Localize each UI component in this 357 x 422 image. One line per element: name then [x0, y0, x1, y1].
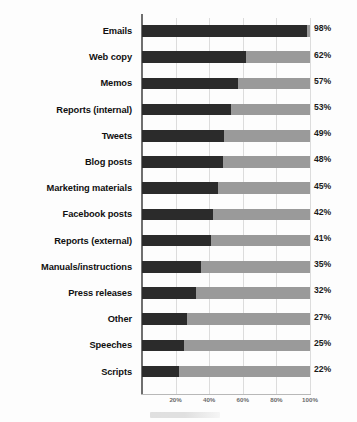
bar-track — [142, 182, 310, 194]
bar-fill — [142, 78, 238, 90]
x-tick-label-80: 80% — [270, 396, 282, 403]
bar-fill — [142, 313, 187, 325]
bar-value-label: 22% — [314, 364, 331, 374]
category-label: Manuals/instructions — [0, 254, 132, 280]
category-label: Reports (external) — [0, 228, 132, 254]
caption-remnant — [150, 412, 220, 418]
category-label: Reports (internal) — [0, 97, 132, 123]
bar-value-label: 45% — [314, 181, 331, 191]
bar-value-label: 42% — [314, 207, 331, 217]
category-label: Blog posts — [0, 149, 132, 175]
category-label: Press releases — [0, 280, 132, 306]
category-label: Scripts — [0, 359, 132, 385]
bar-track — [142, 313, 310, 325]
bar-value-label: 53% — [314, 102, 331, 112]
bar-track — [142, 261, 310, 273]
bar-fill — [142, 340, 184, 352]
bar-track — [142, 130, 310, 142]
chart-row: Press releases 32% — [0, 280, 357, 306]
value-axis-baseline — [141, 394, 311, 395]
bar-value-label: 49% — [314, 128, 331, 138]
bar-track — [142, 156, 310, 168]
chart-row: Memos 57% — [0, 70, 357, 96]
bar-track — [142, 25, 310, 37]
bar-value-label: 48% — [314, 154, 331, 164]
chart-row: Tweets 49% — [0, 123, 357, 149]
bar-track — [142, 287, 310, 299]
category-label: Emails — [0, 18, 132, 44]
bar-value-label: 25% — [314, 338, 331, 348]
x-tick-label-40: 40% — [203, 396, 215, 403]
bar-value-label: 62% — [314, 50, 331, 60]
bar-value-label: 35% — [314, 259, 331, 269]
chart-row: Reports (external) 41% — [0, 228, 357, 254]
chart-row: Scripts 22% — [0, 359, 357, 385]
bar-track — [142, 235, 310, 247]
chart-row: Blog posts 48% — [0, 149, 357, 175]
bar-value-label: 27% — [314, 312, 331, 322]
plot-area: Emails 98% Web copy 62% Memos 57% Report… — [0, 0, 357, 422]
x-tick-label-100: 100% — [302, 396, 318, 403]
category-label: Memos — [0, 70, 132, 96]
bar-fill — [142, 182, 218, 194]
bar-fill — [142, 130, 224, 142]
category-label: Facebook posts — [0, 201, 132, 227]
bar-track — [142, 78, 310, 90]
category-label: Marketing materials — [0, 175, 132, 201]
category-label: Tweets — [0, 123, 132, 149]
bar-value-label: 57% — [314, 76, 331, 86]
bar-track — [142, 340, 310, 352]
chart-row: Facebook posts 42% — [0, 201, 357, 227]
bar-fill — [142, 156, 223, 168]
chart-row: Web copy 62% — [0, 44, 357, 70]
horizontal-bar-chart: Emails 98% Web copy 62% Memos 57% Report… — [0, 0, 357, 422]
bar-track — [142, 209, 310, 221]
category-label: Web copy — [0, 44, 132, 70]
bar-value-label: 41% — [314, 233, 331, 243]
bar-value-label: 32% — [314, 285, 331, 295]
chart-row: Emails 98% — [0, 18, 357, 44]
chart-row: Reports (internal) 53% — [0, 97, 357, 123]
x-tick-label-60: 60% — [237, 396, 249, 403]
bar-track — [142, 51, 310, 63]
chart-row: Other 27% — [0, 306, 357, 332]
category-label: Other — [0, 306, 132, 332]
bar-fill — [142, 287, 196, 299]
bar-value-label: 98% — [314, 23, 331, 33]
bar-fill — [142, 104, 231, 116]
bar-fill — [142, 209, 213, 221]
chart-row: Manuals/instructions 35% — [0, 254, 357, 280]
bar-track — [142, 104, 310, 116]
bar-track — [142, 366, 310, 378]
category-label: Speeches — [0, 332, 132, 358]
bar-fill — [142, 366, 179, 378]
bar-fill — [142, 235, 211, 247]
chart-row: Speeches 25% — [0, 332, 357, 358]
bar-fill — [142, 51, 246, 63]
chart-row: Marketing materials 45% — [0, 175, 357, 201]
bar-fill — [142, 25, 307, 37]
bar-fill — [142, 261, 201, 273]
x-tick-label-20: 20% — [169, 396, 181, 403]
